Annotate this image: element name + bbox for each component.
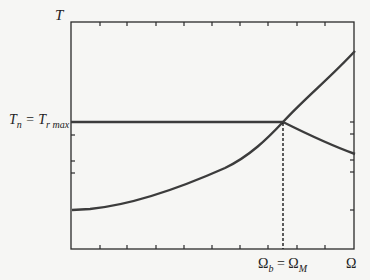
ob-main: Ω bbox=[258, 256, 268, 271]
chart-canvas bbox=[0, 0, 370, 280]
ob-eq: = Ω bbox=[273, 256, 298, 271]
tn-eq: = T bbox=[22, 112, 46, 127]
y-axis-label: T bbox=[55, 7, 63, 24]
ob-sub2: M bbox=[299, 263, 307, 274]
tn-label: Tn = Tr max bbox=[9, 112, 69, 130]
omega-b-label: Ωb = ΩM bbox=[258, 256, 307, 274]
tn-sub2: r max bbox=[46, 119, 69, 130]
x-axis-label: Ω bbox=[346, 256, 356, 272]
rising-curve bbox=[72, 51, 355, 210]
falling-curve bbox=[283, 122, 355, 154]
tn-main: T bbox=[9, 112, 17, 127]
